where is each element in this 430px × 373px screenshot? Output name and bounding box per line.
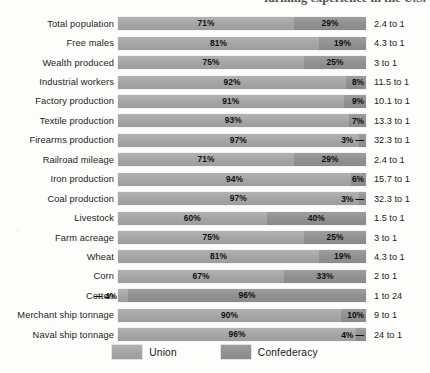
row-label: Coal production <box>0 194 118 204</box>
bar-segment-confederacy: 6% <box>351 173 366 186</box>
row-label: Corn <box>0 271 118 281</box>
chart-legend: Union Confederacy <box>0 345 430 359</box>
bar-segment-union: 81% <box>118 37 319 50</box>
row-bar-area: 97%3% — <box>118 134 366 147</box>
row-label: Industrial workers <box>0 77 118 87</box>
bar-value-union: 67% <box>193 272 210 281</box>
bar-value-union: 75% <box>202 233 219 242</box>
row-ratio: 1 to 24 <box>366 291 430 301</box>
row-label: Naval ship tonnage <box>0 330 118 340</box>
bar-segment-union: 60% <box>118 212 267 225</box>
stacked-bar: 75%25% <box>118 231 366 244</box>
bar-value-confederacy: 96% <box>238 291 255 300</box>
bar-segment-confederacy: 29% <box>294 153 366 166</box>
bar-value-confederacy: 7% <box>352 116 364 125</box>
bar-segment-union: 75% <box>118 56 304 69</box>
row-bar-area: 93%7% <box>118 114 366 127</box>
row-label: Farm acreage <box>0 233 118 243</box>
row-bar-area: 71%29% <box>118 153 366 166</box>
stacked-bar: 91%9% <box>118 95 366 108</box>
stacked-bar: 60%40% <box>118 212 366 225</box>
cut-off-running-text-value: farming experience in the U.S. <box>264 0 426 6</box>
row-bar-area: 71%29% <box>118 17 366 30</box>
row-ratio: 24 to 1 <box>366 330 430 340</box>
row-ratio: 15.7 to 1 <box>366 174 430 184</box>
bar-value-confederacy: 25% <box>326 233 343 242</box>
row-bar-area: 67%33% <box>118 270 366 283</box>
chart-row: Total population71%29%2.4 to 1 <box>0 14 430 33</box>
chart-row: Naval ship tonnage96%4% —24 to 1 <box>0 325 430 344</box>
stacked-bar: 94%6% <box>118 173 366 186</box>
bar-value-union: 75% <box>202 58 219 67</box>
bar-value-confederacy: 9% <box>352 97 364 106</box>
row-bar-area: 92%8% <box>118 76 366 89</box>
legend-swatch-union <box>112 345 142 359</box>
row-ratio: 9 to 1 <box>366 310 430 320</box>
stacked-bar: — 4%96% <box>118 289 366 302</box>
bar-value-union: 93% <box>225 116 242 125</box>
row-label: Livestock <box>0 213 118 223</box>
bar-value-confederacy: 10% <box>347 311 364 320</box>
bar-segment-union: 92% <box>118 76 346 89</box>
chart-row: Textile production93%7%13.3 to 1 <box>0 111 430 130</box>
row-label: Iron production <box>0 174 118 184</box>
stacked-bar: 97%3% — <box>118 134 366 147</box>
bar-value-union: 91% <box>222 97 239 106</box>
row-ratio: 11.5 to 1 <box>366 77 430 87</box>
bar-value-union: 97% <box>230 194 247 203</box>
cut-off-running-text: farming experience in the U.S. <box>0 0 430 9</box>
bar-segment-confederacy: 8% <box>346 76 366 89</box>
row-bar-area: 91%9% <box>118 95 366 108</box>
stacked-bar: 92%8% <box>118 76 366 89</box>
legend-item-union: Union <box>112 345 177 359</box>
bar-segment-confederacy: 3% — <box>359 134 366 147</box>
row-ratio: 2 to 1 <box>366 271 430 281</box>
bar-value-union: 81% <box>210 39 227 48</box>
stacked-bar: 81%19% <box>118 37 366 50</box>
bar-value-union: — 4% <box>94 291 117 300</box>
row-label: Wealth produced <box>0 58 118 68</box>
bar-segment-confederacy: 40% <box>267 212 366 225</box>
row-ratio: 32.3 to 1 <box>366 135 430 145</box>
bar-segment-confederacy: 25% <box>304 231 366 244</box>
bar-segment-confederacy: 29% <box>294 17 366 30</box>
bar-segment-union: 81% <box>118 250 319 263</box>
row-ratio: 13.3 to 1 <box>366 116 430 126</box>
legend-label-union: Union <box>149 347 177 358</box>
bar-segment-union: 91% <box>118 95 344 108</box>
stacked-bar: 75%25% <box>118 56 366 69</box>
bar-segment-confederacy: 33% <box>284 270 366 283</box>
bar-segment-union: 97% <box>118 134 359 147</box>
row-bar-area: 60%40% <box>118 212 366 225</box>
row-ratio: 10.1 to 1 <box>366 96 430 106</box>
chart-row: Free males81%19%4.3 to 1 <box>0 33 430 52</box>
bar-value-confederacy: 29% <box>322 155 339 164</box>
row-ratio: 3 to 1 <box>366 58 430 68</box>
bar-value-union: 94% <box>226 175 243 184</box>
union-confederacy-resources-chart: Total population71%29%2.4 to 1Free males… <box>0 14 430 344</box>
stacked-bar: 97%3% — <box>118 192 366 205</box>
row-ratio: 2.4 to 1 <box>366 19 430 29</box>
bar-segment-confederacy: 96% <box>128 289 366 302</box>
chart-row: Railroad mileage71%29%2.4 to 1 <box>0 150 430 169</box>
bar-segment-union: 71% <box>118 17 294 30</box>
bar-segment-confederacy: 3% — <box>359 192 366 205</box>
bar-value-confederacy: 25% <box>326 58 343 67</box>
bar-value-union: 81% <box>210 252 227 261</box>
chart-row: Wheat81%19%4.3 to 1 <box>0 247 430 266</box>
row-ratio: 4.3 to 1 <box>366 252 430 262</box>
chart-row: Coal production97%3% —32.3 to 1 <box>0 189 430 208</box>
chart-row: Cotton— 4%96%1 to 24 <box>0 286 430 305</box>
row-ratio: 2.4 to 1 <box>366 155 430 165</box>
row-label: Factory production <box>0 96 118 106</box>
bar-value-confederacy: 6% <box>352 175 364 184</box>
bar-segment-union: 97% <box>118 192 359 205</box>
bar-value-union: 92% <box>224 78 241 87</box>
bar-segment-union: 71% <box>118 153 294 166</box>
row-bar-area: 96%4% — <box>118 328 366 341</box>
bar-value-union: 97% <box>230 136 247 145</box>
bar-value-confederacy: 33% <box>317 272 334 281</box>
row-label: Textile production <box>0 116 118 126</box>
stacked-bar: 96%4% — <box>118 328 366 341</box>
stacked-bar: 93%7% <box>118 114 366 127</box>
